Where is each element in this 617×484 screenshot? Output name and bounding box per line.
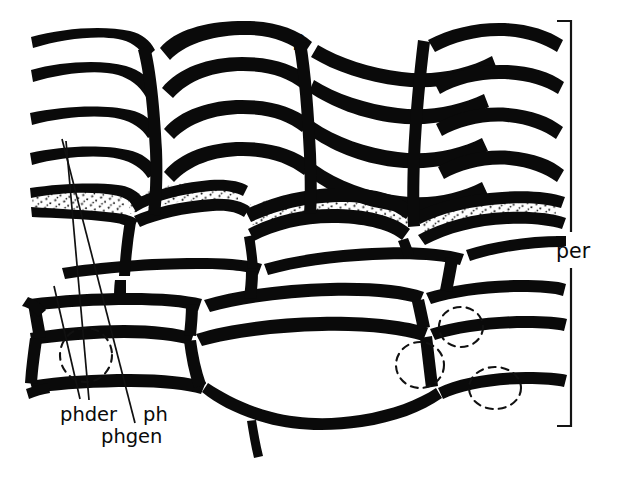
bracket-label-per: per bbox=[556, 239, 591, 263]
annotation-label-phder: phder bbox=[60, 403, 118, 426]
figure-container: B per phder ph phgen bbox=[0, 0, 617, 484]
anticlinal-wall-h bbox=[244, 271, 258, 299]
annotation-label-phgen: phgen bbox=[101, 425, 162, 448]
periderm-diagram-svg: B per phder ph phgen bbox=[0, 0, 617, 484]
annotation-label-ph: ph bbox=[143, 403, 168, 426]
panel-letter-B: B bbox=[292, 31, 306, 55]
anticlinal-wall-k bbox=[184, 304, 198, 336]
anticlinal-wall-g bbox=[114, 280, 126, 300]
